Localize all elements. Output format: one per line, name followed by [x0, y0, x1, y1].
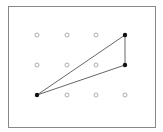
filled-vertex-dot	[123, 63, 127, 67]
empty-grid-dot	[35, 33, 39, 37]
empty-grid-dot	[35, 63, 39, 67]
frame-border	[9, 7, 156, 128]
empty-grid-dot	[94, 63, 98, 67]
empty-grid-dot	[94, 33, 98, 37]
empty-grid-dot	[65, 93, 69, 97]
empty-grid-dot	[94, 93, 98, 97]
filled-vertex-dot	[35, 93, 39, 97]
triangle-edges	[37, 35, 125, 95]
geoboard-diagram	[0, 0, 163, 132]
frame	[9, 7, 156, 128]
triangle-edge	[37, 65, 125, 95]
empty-grid-dot	[65, 63, 69, 67]
filled-vertex-dot	[123, 33, 127, 37]
empty-grid-dot	[65, 33, 69, 37]
triangle-edge	[37, 35, 125, 95]
empty-grid-dot	[123, 93, 127, 97]
